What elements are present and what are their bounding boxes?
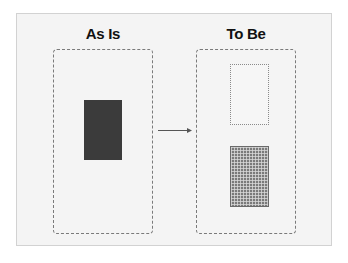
as-is-title: As Is [53,25,153,42]
diagram-canvas: As Is To Be [0,0,348,263]
to-be-dotted-rectangle [230,64,269,125]
as-is-solid-rectangle [84,100,122,160]
to-be-title: To Be [196,25,296,42]
right-arrow-icon [158,126,192,135]
to-be-grid-rectangle [230,146,269,207]
